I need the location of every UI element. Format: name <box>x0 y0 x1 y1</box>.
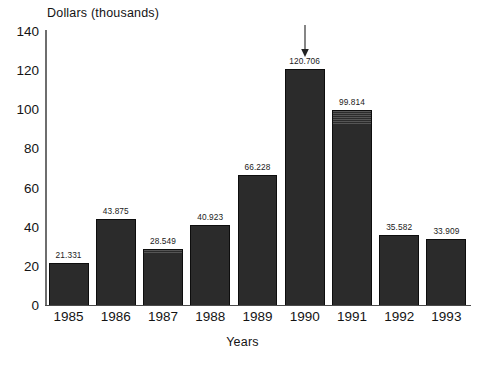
y-axis-tick-label: 60 <box>24 180 39 195</box>
bar-value-label: 28.549 <box>150 236 176 246</box>
bar-group: 66.228 <box>238 31 278 305</box>
bar-group: 35.582 <box>379 31 419 305</box>
bar-value-label: 35.582 <box>386 222 412 232</box>
bars-layer: 21.33143.87528.54940.92366.228120.70699.… <box>45 31 470 305</box>
x-axis-tick-label: 1991 <box>337 309 367 324</box>
y-axis-tick-label: 100 <box>16 102 39 117</box>
bar-group: 28.549 <box>143 31 183 305</box>
y-axis-tick-label: 120 <box>16 63 39 78</box>
y-axis-tick-label: 0 <box>31 298 39 313</box>
bar-value-label: 21.331 <box>56 250 82 260</box>
bar-value-label: 120.706 <box>289 56 320 66</box>
x-axis-tick-label: 1987 <box>148 309 178 324</box>
x-axis-tick-label: 1985 <box>54 309 84 324</box>
x-axis-tick-label: 1988 <box>195 309 225 324</box>
x-axis-tick-label: 1992 <box>384 309 414 324</box>
bar[interactable] <box>332 110 372 305</box>
bar[interactable] <box>285 69 325 305</box>
bar-value-label: 43.875 <box>103 206 129 216</box>
bar-value-label: 33.909 <box>433 226 459 236</box>
bar-group: 43.875 <box>96 31 136 305</box>
y-axis-tick-label: 40 <box>24 219 39 234</box>
bar-group: 120.706 <box>285 31 325 305</box>
bar[interactable] <box>238 175 278 305</box>
x-axis-tick-label: 1986 <box>101 309 131 324</box>
x-axis-tick-label: 1993 <box>431 309 461 324</box>
bar[interactable] <box>426 239 466 305</box>
y-axis-tick-label: 140 <box>16 24 39 39</box>
bar-group: 40.923 <box>190 31 230 305</box>
y-axis-title: Dollars (thousands) <box>47 6 159 20</box>
bar[interactable] <box>96 219 136 305</box>
bar[interactable] <box>379 235 419 305</box>
bar-group: 99.814 <box>332 31 372 305</box>
x-axis-tick-label: 1989 <box>242 309 272 324</box>
bar-group: 33.909 <box>426 31 466 305</box>
bar[interactable] <box>143 249 183 305</box>
bar-value-label: 99.814 <box>339 97 365 107</box>
x-axis-tick-labels: 198519861987198819891990199119921993 <box>45 309 470 331</box>
bar-value-label: 66.228 <box>244 162 270 172</box>
x-axis-tick-label: 1990 <box>290 309 320 324</box>
bar-chart: Dollars (thousands) 020406080100120140 2… <box>0 0 485 366</box>
y-axis-tick-label: 80 <box>24 141 39 156</box>
bar[interactable] <box>190 225 230 305</box>
bar-value-label: 40.923 <box>197 212 223 222</box>
y-axis-tick-label: 20 <box>24 258 39 273</box>
bar-group: 21.331 <box>49 31 89 305</box>
bar[interactable] <box>49 263 89 305</box>
x-axis-title: Years <box>0 335 485 349</box>
